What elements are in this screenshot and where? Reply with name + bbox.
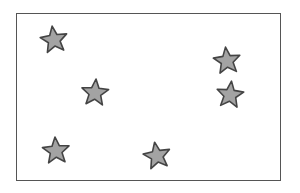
star-icon [143,142,169,168]
star-icon [213,47,240,73]
stars-canvas [0,0,300,193]
star-icon [217,81,244,107]
star-icon [82,79,109,105]
star-icon [40,26,66,52]
star-icon [42,137,69,163]
